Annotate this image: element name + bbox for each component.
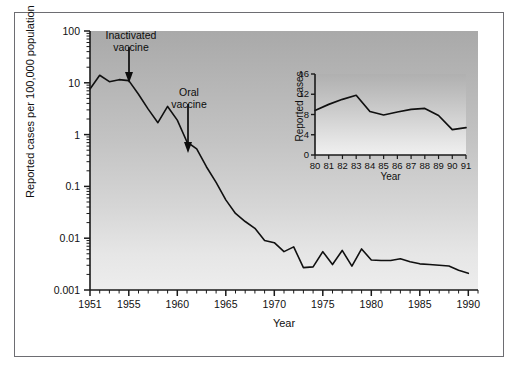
- y-tick-label: 0.001: [0, 285, 80, 296]
- figure-root: 1001010.10.010.001 195119551960196519701…: [0, 0, 519, 371]
- annotation-oral-line1: Oral: [158, 87, 220, 99]
- annotation-inactivated-line2: vaccine: [96, 42, 166, 54]
- annotation-oral-line2: vaccine: [158, 99, 220, 111]
- y-axis-ticks: [84, 31, 90, 290]
- x-axis-ticks: [90, 290, 478, 296]
- y-tick-label: 100: [0, 26, 80, 37]
- annotation-inactivated-line1: Inactivated: [96, 30, 166, 42]
- y-tick-label: 10: [0, 78, 80, 89]
- annotation-oral-vaccine: Oral vaccine: [158, 87, 220, 111]
- annotation-inactivated-vaccine: Inactivated vaccine: [96, 30, 166, 54]
- y-tick-label: 0.1: [0, 181, 80, 192]
- x-axis-title: Year: [90, 317, 478, 329]
- y-tick-label: 1: [0, 130, 80, 141]
- y-axis-title: Reported cases per 100,000 population: [24, 18, 36, 198]
- x-tick-label: 1990: [438, 299, 498, 310]
- inset-y-axis-title: Reported cases: [294, 59, 305, 155]
- inactivated-vaccine-arrow-head: [125, 72, 133, 83]
- y-tick-label: 0.01: [0, 233, 80, 244]
- inset-x-axis-title: Year: [315, 171, 466, 182]
- oral-vaccine-arrow-head: [184, 142, 192, 153]
- inset-x-tick-label: 91: [456, 161, 476, 171]
- inset-chart: 1612840 808182838485868788899091 Reporte…: [287, 63, 473, 186]
